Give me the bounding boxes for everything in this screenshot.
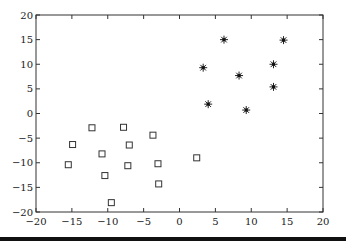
bottom-border-bar (0, 237, 346, 241)
y-tick-label: 20 (20, 10, 33, 21)
square-point (121, 124, 127, 130)
scatter-chart: −20−15−10−505101520−20−15−10−505101520 (0, 0, 346, 241)
square-point (89, 125, 95, 131)
square-point (108, 200, 114, 206)
x-tick-label: −5 (136, 216, 151, 227)
x-tick-label: 0 (176, 216, 182, 227)
asterisk-point (269, 83, 277, 91)
y-tick-label: 5 (27, 83, 33, 94)
square-point (155, 161, 161, 167)
square-point (150, 132, 156, 138)
y-tick-label: 15 (20, 34, 33, 45)
x-tick-label: 5 (212, 216, 218, 227)
x-tick-label: 10 (245, 216, 258, 227)
square-point (102, 173, 108, 179)
y-tick-label: 0 (27, 108, 33, 119)
y-tick-label: −20 (12, 207, 33, 218)
square-point (65, 162, 71, 168)
square-point (70, 142, 76, 148)
axes-frame (36, 15, 323, 212)
asterisk-point (204, 100, 212, 108)
x-tick-label: −10 (97, 216, 118, 227)
data-points (65, 36, 287, 206)
y-tick-label: −15 (12, 182, 33, 193)
square-point (125, 163, 131, 169)
square-point (194, 155, 200, 161)
x-tick-label: 15 (281, 216, 294, 227)
square-point (126, 142, 132, 148)
asterisk-point (235, 72, 243, 80)
asterisk-point (199, 64, 207, 72)
x-tick-label: 20 (317, 216, 330, 227)
square-point (156, 181, 162, 187)
square-point (99, 151, 105, 157)
asterisk-point (220, 36, 228, 44)
x-tick-label: −15 (61, 216, 82, 227)
y-tick-label: 10 (20, 59, 33, 70)
asterisk-point (280, 36, 288, 44)
y-tick-label: −5 (18, 133, 33, 144)
axis-ticks (36, 15, 323, 212)
asterisk-point (269, 60, 277, 68)
x-tick-label: −20 (25, 216, 46, 227)
y-tick-label: −10 (12, 157, 33, 168)
asterisk-point (242, 106, 250, 114)
